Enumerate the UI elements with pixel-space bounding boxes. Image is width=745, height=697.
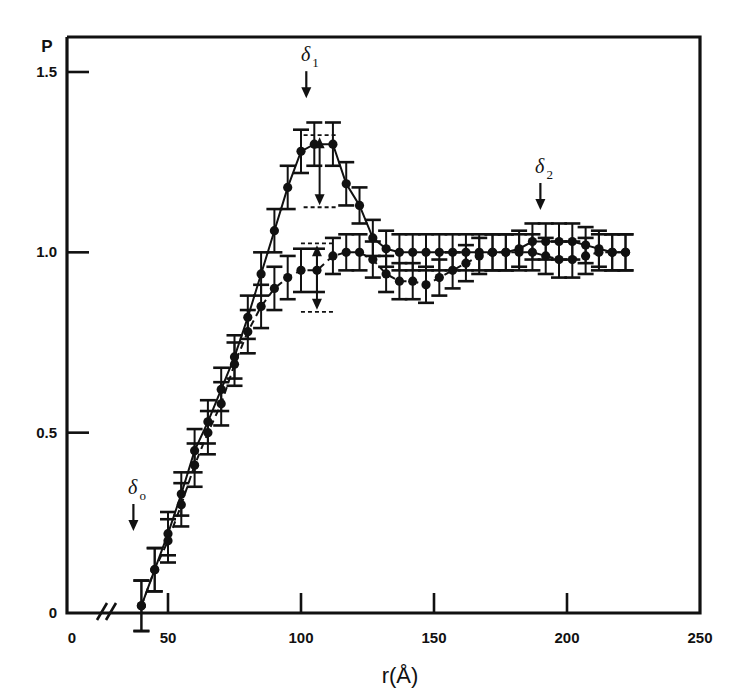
spread-marker-layer: [301, 135, 336, 312]
data-point: [395, 248, 404, 257]
data-point: [395, 277, 404, 286]
delta-2-subscript: 2: [546, 167, 553, 182]
upper-curve: [133, 122, 633, 631]
delta-0-arrowhead-icon: [128, 520, 138, 531]
data-point: [608, 248, 617, 257]
data-point: [296, 266, 305, 275]
x-axis-tick-labels: 050100150200250: [68, 629, 713, 646]
x-axis-ticks: [168, 593, 567, 613]
data-point: [283, 183, 292, 192]
data-point: [355, 248, 364, 257]
data-point: [296, 147, 305, 156]
y-axis-label: P: [41, 37, 52, 56]
data-point: [328, 251, 337, 260]
data-point: [163, 536, 172, 545]
data-point: [408, 248, 417, 257]
data-point: [435, 248, 444, 257]
data-point: [177, 500, 186, 509]
delta-2-annotation: δ2: [535, 155, 553, 210]
x-tick-label: 150: [421, 629, 446, 646]
data-point: [150, 565, 159, 574]
data-point: [342, 179, 351, 188]
data-point: [283, 273, 292, 282]
data-point: [368, 255, 377, 264]
x-tick-label: 200: [554, 629, 579, 646]
data-point: [435, 273, 444, 282]
data-series-layer: [133, 122, 633, 631]
marker-arrowhead-down: [312, 299, 322, 310]
delta-0-subscript: o: [139, 488, 146, 503]
data-point: [475, 251, 484, 260]
x-tick-label: 100: [288, 629, 313, 646]
y-tick-label: 1.0: [36, 243, 57, 260]
data-point: [488, 248, 497, 257]
x-tick-label: 0: [68, 629, 76, 646]
data-point: [421, 248, 430, 257]
x-tick-label: 50: [160, 629, 177, 646]
data-point: [461, 259, 470, 268]
x-axis-title: r(Å): [382, 663, 419, 688]
data-point: [621, 248, 630, 257]
lower-curve: [133, 234, 633, 631]
data-point: [190, 461, 199, 470]
data-point: [342, 248, 351, 257]
delta-2-arrowhead-icon: [535, 199, 545, 210]
data-point: [528, 248, 537, 257]
delta-1-subscript: 1: [312, 55, 319, 70]
data-point: [217, 399, 226, 408]
data-point: [408, 277, 417, 286]
figure-container: 00.51.01.5 050100150200250 δoδ1δ2 P r(Å): [0, 0, 745, 697]
data-point: [257, 302, 266, 311]
y-tick-label: 1.5: [36, 63, 57, 80]
data-point: [554, 255, 563, 264]
y-axis-ticks: [67, 72, 89, 433]
data-point: [355, 201, 364, 210]
delta-0-annotation: δo: [128, 476, 146, 531]
data-point: [230, 360, 239, 369]
y-tick-label: 0.5: [36, 424, 57, 441]
marker-arrowhead-up: [312, 245, 322, 256]
data-point: [257, 269, 266, 278]
data-point: [382, 244, 391, 253]
y-axis-tick-labels: 00.51.01.5: [36, 63, 57, 621]
data-point: [328, 140, 337, 149]
delta-1-label: δ: [301, 43, 311, 65]
data-point: [243, 327, 252, 336]
delta-0-label: δ: [128, 476, 138, 498]
data-point: [541, 251, 550, 260]
scatter-plot: 00.51.01.5 050100150200250 δoδ1δ2 P r(Å): [0, 0, 745, 697]
data-point: [501, 248, 510, 257]
data-point: [203, 428, 212, 437]
x-tick-label: 250: [687, 629, 712, 646]
series-line: [141, 144, 625, 606]
data-point: [581, 251, 590, 260]
data-point: [382, 269, 391, 278]
delta-1-annotation: δ1: [301, 43, 319, 98]
data-point: [270, 226, 279, 235]
series-line: [141, 252, 625, 605]
plot-frame: [67, 37, 700, 613]
y-tick-label: 0: [49, 604, 57, 621]
data-point: [594, 248, 603, 257]
data-point: [448, 266, 457, 275]
data-point: [421, 280, 430, 289]
data-point: [137, 601, 146, 610]
delta-1-arrowhead-icon: [301, 87, 311, 98]
spread-marker-lower: [301, 243, 333, 311]
delta-2-label: δ: [535, 155, 545, 177]
data-point: [568, 255, 577, 264]
data-point: [515, 248, 524, 257]
data-point: [270, 284, 279, 293]
marker-arrowhead-down: [315, 194, 325, 205]
